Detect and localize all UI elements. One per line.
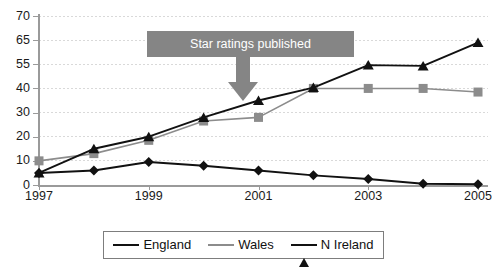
legend-key-england xyxy=(113,239,139,251)
chart-legend: England Wales N Ireland xyxy=(103,231,384,259)
annotation-banner-label: Star ratings published xyxy=(147,31,354,57)
legend-label-england: England xyxy=(143,238,191,252)
data-point-marker xyxy=(199,161,209,171)
legend-item-wales: Wales xyxy=(208,238,274,252)
data-point-marker xyxy=(363,174,373,184)
annotation-arrow-head xyxy=(228,82,258,101)
data-point-marker xyxy=(418,179,428,189)
data-point-marker xyxy=(308,170,318,180)
data-point-marker xyxy=(144,157,154,167)
data-point-marker xyxy=(364,84,373,93)
data-point-marker xyxy=(89,166,99,176)
annotation-arrow-stem xyxy=(236,57,250,83)
legend-item-england: England xyxy=(113,238,191,252)
plot-area: 010203040556570 19971999200120032005 Sta… xyxy=(0,0,490,215)
data-point-marker xyxy=(254,113,263,122)
triangle-marker-icon xyxy=(299,241,309,259)
legend-label-wales: Wales xyxy=(238,238,274,252)
annotation-banner: Star ratings published xyxy=(147,31,354,57)
legend-label-n-ireland: N Ireland xyxy=(321,238,374,252)
series-england xyxy=(34,157,483,189)
legend-key-n-ireland xyxy=(291,239,317,251)
legend-item-n-ireland: N Ireland xyxy=(291,238,374,252)
data-point-marker xyxy=(35,156,44,165)
data-point-marker xyxy=(473,38,484,48)
data-point-marker xyxy=(254,166,264,176)
series-line xyxy=(39,43,478,173)
legend-key-wales xyxy=(208,239,234,251)
data-point-marker xyxy=(419,84,428,93)
series-n-ireland xyxy=(34,38,484,178)
data-point-marker xyxy=(473,179,483,189)
data-point-marker xyxy=(474,88,483,97)
